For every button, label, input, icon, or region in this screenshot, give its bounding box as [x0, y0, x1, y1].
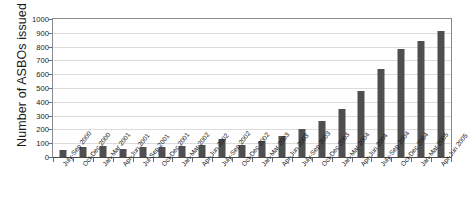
y-tick-label: 200: [3, 125, 49, 134]
x-tick-mark: [172, 158, 173, 162]
y-tick-label: 900: [3, 28, 49, 37]
x-tick-mark: [411, 158, 412, 162]
x-tick-mark: [212, 158, 213, 162]
y-tick-label: 300: [3, 111, 49, 120]
y-tick-label: 700: [3, 56, 49, 65]
bar-series: [53, 19, 451, 157]
y-tick-label: 100: [3, 139, 49, 148]
y-tick-label: 800: [3, 42, 49, 51]
x-tick-mark: [391, 158, 392, 162]
y-tick-label: 1000: [3, 15, 49, 24]
x-tick-mark: [371, 158, 372, 162]
y-tick-label: 600: [3, 70, 49, 79]
y-tick-label: 0: [3, 153, 49, 162]
y-tick-label: 500: [3, 84, 49, 93]
x-tick-mark: [53, 158, 54, 162]
x-tick-mark: [192, 158, 193, 162]
bar-slot: [53, 19, 73, 157]
y-tick-label: 400: [3, 97, 49, 106]
